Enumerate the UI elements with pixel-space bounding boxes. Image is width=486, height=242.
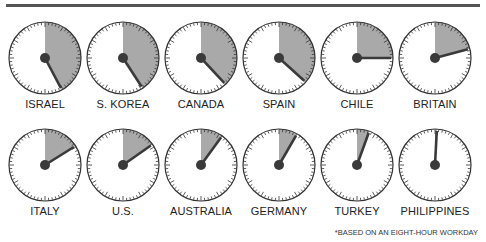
dial-hand: [435, 131, 437, 165]
dial-hub: [352, 53, 362, 63]
dial-face: [241, 127, 317, 203]
dial: GERMANY: [240, 127, 318, 227]
dial-hub: [196, 53, 206, 63]
dial: ISRAEL: [6, 20, 84, 120]
dial-label: U.S.: [84, 205, 162, 217]
dial-face: [397, 127, 473, 203]
dial-face: [319, 127, 395, 203]
dial-hub: [196, 160, 206, 170]
dial-label: TURKEY: [318, 205, 396, 217]
dial-hub: [118, 53, 128, 63]
dial-face: [163, 127, 239, 203]
dial: S. KOREA: [84, 20, 162, 120]
dial-label: GERMANY: [240, 205, 318, 217]
dial-hub: [40, 53, 50, 63]
dial-face: [7, 127, 83, 203]
dial-label: CHILE: [318, 98, 396, 110]
dial-hub: [40, 160, 50, 170]
dial-label: ITALY: [6, 205, 84, 217]
dial-label: ISRAEL: [6, 98, 84, 110]
dial: BRITAIN: [396, 20, 474, 120]
top-rule: [6, 4, 480, 7]
dial-hub: [118, 160, 128, 170]
dial-face: [85, 20, 161, 96]
dial-face: [163, 20, 239, 96]
dial-hub: [274, 160, 284, 170]
dial: PHILIPPINES: [396, 127, 474, 227]
dial-hub: [274, 53, 284, 63]
dial-label: AUSTRALIA: [162, 205, 240, 217]
dial-face: [85, 127, 161, 203]
dial: CHILE: [318, 20, 396, 120]
dial-label: PHILIPPINES: [396, 205, 474, 217]
dial-face: [397, 20, 473, 96]
dial-label: SPAIN: [240, 98, 318, 110]
dial-face: [241, 20, 317, 96]
dial: SPAIN: [240, 20, 318, 120]
dial: AUSTRALIA: [162, 127, 240, 227]
dial: ITALY: [6, 127, 84, 227]
dial-hub: [430, 53, 440, 63]
dial-label: S. KOREA: [84, 98, 162, 110]
dial-label: BRITAIN: [396, 98, 474, 110]
dial: TURKEY: [318, 127, 396, 227]
footnote: *BASED ON AN EIGHT-HOUR WORKDAY: [335, 228, 478, 237]
dial-hub: [430, 160, 440, 170]
dial-face: [7, 20, 83, 96]
dial: CANADA: [162, 20, 240, 120]
dial-face: [319, 20, 395, 96]
dial: U.S.: [84, 127, 162, 227]
dial-hub: [352, 160, 362, 170]
dial-label: CANADA: [162, 98, 240, 110]
